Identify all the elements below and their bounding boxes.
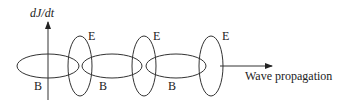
e-label-1: E bbox=[88, 30, 95, 42]
em-wave-diagram: dJ/dt E E E B B B Wave propagation bbox=[0, 0, 350, 103]
e-label-3: E bbox=[222, 30, 229, 42]
e-field-loop-1 bbox=[68, 36, 92, 96]
b-label-3: B bbox=[168, 80, 176, 92]
propagation-label: Wave propagation bbox=[245, 70, 332, 82]
e-field-loop-3 bbox=[199, 36, 223, 96]
b-label-1: B bbox=[34, 80, 42, 92]
b-field-loop-2 bbox=[82, 54, 142, 78]
b-label-2: B bbox=[99, 80, 107, 92]
e-field-loop-2 bbox=[132, 36, 156, 96]
e-label-2: E bbox=[153, 30, 160, 42]
vertical-axis-label: dJ/dt bbox=[30, 7, 54, 19]
b-field-loop-3 bbox=[146, 54, 206, 78]
